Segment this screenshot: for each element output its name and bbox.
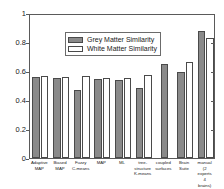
y-tick-mark-right: [211, 43, 214, 44]
x-tick-label: MAP: [97, 160, 106, 166]
y-tick-mark-right: [211, 130, 214, 131]
y-tick-mark-right: [211, 101, 214, 102]
y-tick-mark-right: [211, 72, 214, 73]
bar-grey-matter: [198, 31, 206, 158]
bar-white-matter: [206, 38, 214, 158]
y-tick-label: 0.2: [16, 126, 26, 134]
x-tick-label: tree- structure K-means: [134, 160, 151, 177]
plot-area: Grey Matter Similarity White Matter Simi…: [29, 14, 215, 159]
y-tick-label: 0.4: [16, 97, 26, 105]
legend-label-grey-matter: Grey Matter Similarity: [87, 36, 154, 43]
x-tick-label: Brain Suite: [179, 160, 189, 171]
legend-entry-white-matter: White Matter Similarity: [68, 44, 157, 53]
legend: Grey Matter Similarity White Matter Simi…: [65, 32, 161, 56]
x-tick-label: Adaptive MAP: [31, 160, 48, 171]
x-tick-label: Fuzzy C-means: [72, 160, 89, 171]
x-tick-label: Biased MAP: [53, 160, 66, 171]
legend-swatch-grey-matter: [68, 37, 83, 43]
x-tick-label: manual (2 experts 4 brains): [198, 160, 212, 188]
y-axis: 00.20.40.60.81: [0, 0, 29, 189]
x-tick-label: ML: [119, 160, 125, 166]
legend-label-white-matter: White Matter Similarity: [87, 45, 157, 52]
y-tick-mark-right: [211, 14, 214, 15]
x-axis-labels: Adaptive MAPBiased MAPFuzzy C-meansMAPML…: [29, 160, 215, 189]
x-tick-label: coupled surfaces: [155, 160, 171, 171]
bar-chart-figure: 00.20.40.60.81 Grey Matter Similarity Wh…: [0, 0, 224, 189]
y-tick-label: 0.8: [16, 39, 26, 47]
legend-entry-grey-matter: Grey Matter Similarity: [68, 35, 157, 44]
y-tick-label: 0.6: [16, 68, 26, 76]
legend-swatch-white-matter: [68, 46, 83, 52]
